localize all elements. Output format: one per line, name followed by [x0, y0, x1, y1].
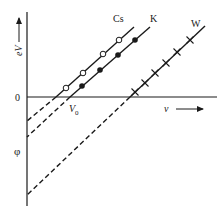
- k-label: K: [150, 13, 158, 24]
- series-w: W: [27, 18, 205, 195]
- threshold-label: V0: [69, 103, 79, 117]
- cs-open-circle-marker: [116, 37, 122, 43]
- series-k: K: [27, 13, 158, 137]
- k-filled-circle-marker: [115, 52, 121, 58]
- cs-open-circle-marker: [63, 85, 69, 91]
- cs-dashed-extension: [27, 97, 56, 121]
- photoelectric-diagram: eV v 0 φ V0 Cs K: [0, 0, 224, 214]
- cs-label: Cs: [113, 13, 124, 24]
- y-axis-label: eV: [13, 44, 24, 56]
- x-axis-label: v: [164, 103, 169, 114]
- series-cs: Cs: [27, 13, 134, 121]
- w-cross-marker: [187, 37, 194, 44]
- cs-open-circle-marker: [100, 51, 106, 57]
- k-filled-circle-marker: [132, 37, 138, 43]
- origin-label: 0: [15, 92, 20, 103]
- k-filled-circle-marker: [79, 83, 85, 89]
- cs-open-circle-marker: [80, 70, 86, 76]
- w-label: W: [191, 18, 201, 29]
- w-cross-marker: [142, 80, 149, 87]
- w-cross-marker: [152, 70, 159, 77]
- k-filled-circle-marker: [97, 67, 103, 73]
- w-cross-marker: [132, 89, 139, 96]
- w-cross-marker: [174, 49, 181, 56]
- w-cross-marker: [163, 60, 170, 67]
- work-function-label: φ: [14, 145, 20, 157]
